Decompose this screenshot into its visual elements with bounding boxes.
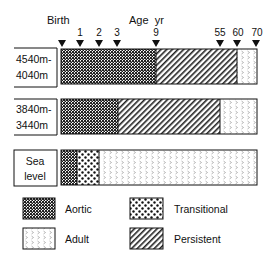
- row-4540m-4040m: 4540m- 4040m: [14, 48, 257, 87]
- tick-label-1: 1: [77, 27, 83, 38]
- row-3840m-3440m: 3840m- 3440m: [14, 99, 257, 135]
- row-label-line1: 4540m-: [16, 53, 52, 65]
- segment-adult: [237, 49, 257, 84]
- tick-label-2: 2: [96, 27, 102, 38]
- row-label-line2: 4040m: [16, 69, 48, 81]
- birth-label: Birth: [47, 14, 70, 26]
- segment-aortic: [61, 150, 77, 185]
- legend-swatch-transitional: [130, 198, 163, 219]
- tick-label-60: 60: [232, 27, 244, 38]
- legend-swatch-aortic: [23, 198, 55, 219]
- segment-persistent: [118, 99, 220, 134]
- tick-arrow-icons: [58, 40, 260, 47]
- legend-swatch-adult: [23, 228, 55, 249]
- row-sea-level: Sea level: [14, 150, 257, 186]
- age-ticks: 1 2 3 9 55 60 70: [58, 27, 263, 47]
- row-label-line2: level: [24, 170, 46, 182]
- legend: Aortic Transitional Adult Persistent: [23, 198, 228, 249]
- tick-label-55: 55: [214, 27, 226, 38]
- segment-aortic: [61, 49, 156, 84]
- age-axis-label: Age yr: [129, 14, 164, 26]
- pulmonary-artery-development-diagram: Birth Age yr 1 2 3 9 55 60 70 4540m- 404…: [0, 0, 272, 262]
- segment-persistent: [156, 49, 237, 84]
- legend-label-persistent: Persistent: [174, 233, 221, 245]
- legend-label-adult: Adult: [65, 233, 89, 245]
- segment-aortic: [61, 99, 118, 134]
- row-label-line2: 3440m: [16, 119, 48, 131]
- segment-adult: [99, 150, 257, 185]
- row-label-line1: 3840m-: [16, 103, 52, 115]
- segment-transitional: [77, 150, 99, 185]
- row-label-line1: Sea: [26, 155, 45, 167]
- segment-adult: [220, 99, 257, 134]
- legend-swatch-persistent: [130, 228, 163, 249]
- legend-label-aortic: Aortic: [65, 203, 92, 215]
- legend-label-transitional: Transitional: [174, 203, 228, 215]
- tick-label-70: 70: [251, 27, 263, 38]
- tick-label-9: 9: [153, 27, 159, 38]
- tick-label-3: 3: [114, 27, 120, 38]
